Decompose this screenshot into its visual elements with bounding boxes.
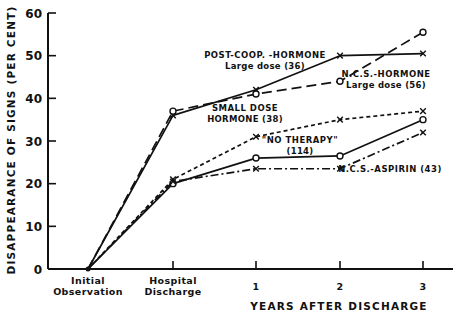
- series-label: HORMONE (38): [207, 114, 283, 124]
- series-label: N.C.S.-HORMONE: [341, 69, 430, 79]
- series-line: [88, 132, 423, 269]
- x-marker: [420, 108, 426, 114]
- series-4: [88, 130, 426, 269]
- line-chart: 0102030405060InitialObservationHospitalD…: [0, 0, 459, 315]
- series-labels: POST-COOP. -HORMONELarge dose (36)N.C.S.…: [204, 50, 442, 174]
- y-tick-label: 40: [25, 92, 42, 106]
- y-tick-label: 0: [34, 263, 42, 277]
- series-line: [88, 111, 423, 269]
- circle-marker: [170, 108, 176, 114]
- series-label: Large dose (36): [225, 61, 305, 71]
- origin-point: [86, 267, 91, 272]
- circle-marker: [337, 153, 343, 159]
- x-tick-label: 3: [419, 281, 426, 292]
- x-tick-label: Observation: [53, 286, 123, 297]
- series-label: POST-COOP. -HORMONE: [204, 50, 326, 60]
- series-label: SMALL DOSE: [212, 103, 278, 113]
- circle-marker: [420, 29, 426, 35]
- x-tick-label: Initial: [71, 275, 105, 286]
- y-axis-title: DISAPPEARANCE OF SIGNS (PER CENT): [5, 5, 17, 274]
- circle-marker: [337, 78, 343, 84]
- series-3: [88, 117, 426, 269]
- x-tick-label: 1: [252, 281, 259, 292]
- series-2: [88, 108, 426, 269]
- series-label: (114): [286, 146, 313, 156]
- y-tick-label: 10: [25, 220, 42, 234]
- x-marker: [420, 130, 426, 136]
- y-tick-label: 20: [25, 177, 42, 191]
- y-tick-label: 60: [25, 7, 42, 21]
- x-tick-label: Hospital: [149, 275, 197, 286]
- circle-marker: [253, 155, 259, 161]
- circle-marker: [253, 91, 259, 97]
- y-tick-label: 30: [25, 135, 42, 149]
- x-axis-title: YEARS AFTER DISCHARGE: [249, 300, 427, 312]
- series-label: "NO THERAPY": [262, 135, 338, 145]
- circle-marker: [420, 117, 426, 123]
- series-label: N.C.S.-ASPIRIN (43): [338, 164, 442, 174]
- y-tick-label: 50: [25, 49, 42, 63]
- x-tick-label: Discharge: [144, 286, 201, 297]
- series-line: [88, 120, 423, 269]
- series-label: Large dose (56): [346, 80, 426, 90]
- x-tick-label: 2: [336, 281, 343, 292]
